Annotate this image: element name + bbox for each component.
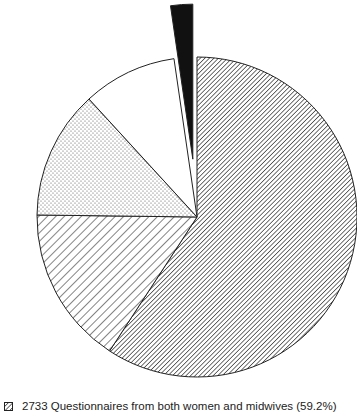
pie-chart <box>0 0 357 419</box>
legend: 2733 Questionnaires from both women and … <box>4 398 337 414</box>
legend-item: 2733 Questionnaires from both women and … <box>4 398 337 414</box>
legend-label: 2733 Questionnaires from both women and … <box>22 400 337 412</box>
legend-swatch-dense-hatch-icon <box>4 402 13 411</box>
pie-slices <box>37 4 357 377</box>
